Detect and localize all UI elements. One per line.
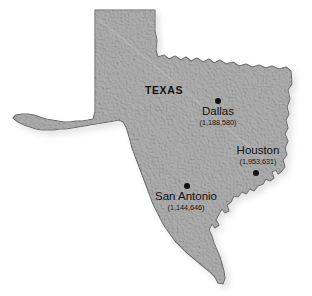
city-population-san-antonio: (1,144,646) (136, 204, 236, 212)
city-dot-san-antonio[interactable] (184, 183, 190, 189)
city-label-houston[interactable]: Houston (1,953,631) (218, 145, 298, 165)
city-population-dallas: (1,188,580) (178, 119, 258, 127)
texas-population-map: TEXAS Dallas (1,188,580) Houston (1,953,… (0, 0, 312, 296)
city-name-dallas: Dallas (178, 106, 258, 118)
city-label-san-antonio[interactable]: San Antonio (1,144,646) (136, 191, 236, 211)
city-population-houston: (1,953,631) (218, 158, 298, 166)
state-label-texas: TEXAS (145, 85, 183, 96)
city-name-san-antonio: San Antonio (136, 191, 236, 203)
city-name-houston: Houston (218, 145, 298, 157)
city-dot-dallas[interactable] (215, 98, 221, 104)
city-label-dallas[interactable]: Dallas (1,188,580) (178, 106, 258, 126)
city-dot-houston[interactable] (253, 170, 259, 176)
